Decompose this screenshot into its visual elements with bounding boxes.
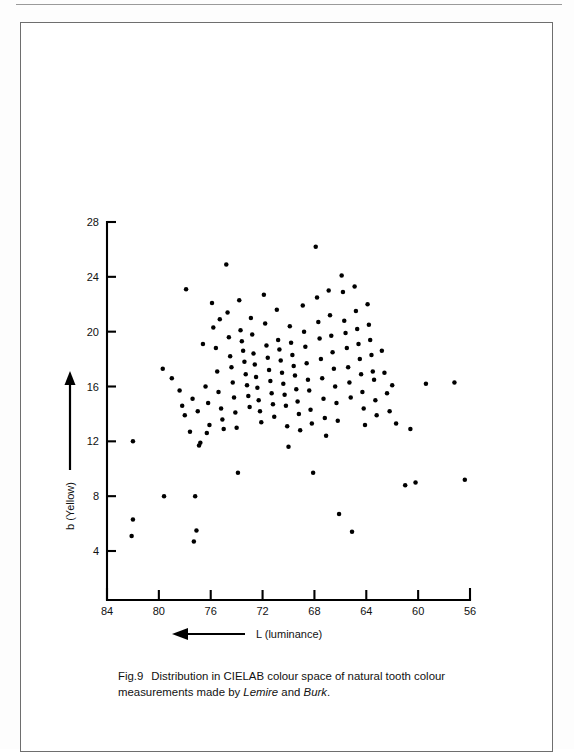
- data-point: [337, 512, 342, 517]
- data-point: [232, 395, 237, 400]
- data-point: [255, 386, 260, 391]
- data-point: [328, 313, 333, 318]
- y-tick-label: 12: [87, 435, 99, 447]
- y-tick-label: 4: [93, 545, 99, 557]
- data-point: [278, 358, 283, 363]
- data-point: [161, 366, 166, 371]
- data-point: [307, 388, 312, 393]
- data-point: [310, 421, 315, 426]
- data-point: [291, 364, 296, 369]
- data-point: [267, 368, 272, 373]
- data-point: [284, 403, 289, 408]
- y-tick-label: 8: [93, 490, 99, 502]
- data-point: [194, 528, 199, 533]
- x-axis-title: L (luminance): [256, 628, 322, 640]
- data-point: [313, 244, 318, 249]
- caption-author-burk: Burk: [304, 686, 327, 698]
- data-point: [361, 406, 366, 411]
- data-point: [193, 494, 198, 499]
- data-point: [390, 383, 395, 388]
- data-point: [294, 387, 299, 392]
- data-point: [263, 321, 268, 326]
- data-point: [203, 384, 208, 389]
- data-point: [326, 288, 331, 293]
- data-point: [316, 320, 321, 325]
- y-axis-title: b (Yellow): [64, 482, 76, 530]
- data-point: [207, 423, 212, 428]
- data-point: [347, 380, 352, 385]
- data-point: [231, 380, 236, 385]
- data-point: [295, 399, 300, 404]
- data-point: [216, 390, 221, 395]
- data-point: [369, 353, 374, 358]
- data-point: [258, 409, 263, 414]
- data-point: [180, 403, 185, 408]
- caption-figure-number: Fig.9: [118, 670, 143, 682]
- data-point: [339, 273, 344, 278]
- data-point: [131, 517, 136, 522]
- data-point: [336, 419, 341, 424]
- x-tick-label: 76: [205, 605, 217, 617]
- data-point: [463, 477, 468, 482]
- data-point: [240, 339, 245, 344]
- data-point: [350, 530, 355, 535]
- data-point: [211, 325, 216, 330]
- data-point: [170, 376, 175, 381]
- data-point: [271, 402, 276, 407]
- caption-author-lemire: Lemire: [243, 686, 278, 698]
- data-point: [262, 292, 267, 297]
- data-point: [247, 405, 252, 410]
- data-point: [238, 328, 243, 333]
- data-point: [227, 335, 232, 340]
- caption-period: .: [327, 686, 330, 698]
- data-point: [131, 439, 136, 444]
- data-point: [380, 349, 385, 354]
- data-point: [403, 483, 408, 488]
- data-point: [197, 443, 202, 448]
- data-point: [320, 376, 325, 381]
- data-point: [355, 327, 360, 332]
- data-point: [413, 480, 418, 485]
- data-point: [293, 373, 298, 378]
- data-point: [452, 380, 457, 385]
- y-axis-arrow: [65, 371, 76, 470]
- data-point: [286, 445, 291, 450]
- data-point: [363, 423, 368, 428]
- data-point: [385, 391, 390, 396]
- data-point: [241, 349, 246, 354]
- data-point: [245, 383, 250, 388]
- data-point: [221, 427, 226, 432]
- data-point: [424, 382, 429, 387]
- data-point: [408, 427, 413, 432]
- data-point: [251, 351, 256, 356]
- data-point: [346, 365, 351, 370]
- data-point: [242, 360, 247, 365]
- data-point: [201, 342, 206, 347]
- x-axis-tick-labels: 8480767268646056: [101, 605, 476, 617]
- data-point: [317, 336, 322, 341]
- data-point: [306, 377, 311, 382]
- data-point: [177, 388, 182, 393]
- data-point: [371, 369, 376, 374]
- data-point: [297, 412, 302, 417]
- data-point: [218, 317, 223, 322]
- scatter-plot-svg: 8480767268646056 481216202428 b (Yellow)…: [0, 0, 574, 660]
- data-point: [266, 355, 271, 360]
- data-point: [233, 410, 238, 415]
- data-point: [225, 310, 230, 315]
- data-point: [249, 316, 254, 321]
- data-point: [234, 425, 239, 430]
- x-tick-label: 68: [308, 605, 320, 617]
- data-point: [324, 434, 329, 439]
- data-point: [210, 301, 215, 306]
- data-point: [311, 471, 316, 476]
- data-point: [129, 534, 134, 539]
- data-point: [229, 365, 234, 370]
- data-point: [394, 421, 399, 426]
- data-point: [382, 371, 387, 376]
- data-point: [268, 379, 273, 384]
- data-point: [280, 371, 285, 376]
- data-point: [387, 409, 392, 414]
- figure-caption: Fig.9Distribution in CIELAB colour space…: [118, 668, 518, 700]
- data-point: [323, 416, 328, 421]
